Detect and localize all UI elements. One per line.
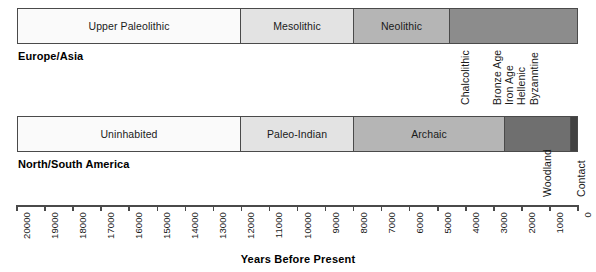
- axis-tick-label: 9000: [330, 212, 341, 234]
- axis-tick: [185, 205, 187, 211]
- axis-tick-label: 14000: [189, 212, 200, 239]
- timeline-vertical-label: Chalcolithic: [459, 50, 471, 105]
- axis-tick-label: 12000: [245, 212, 256, 239]
- axis-tick-label: 17000: [105, 212, 116, 239]
- timeline-segment: Archaic: [354, 117, 505, 151]
- timeline-vertical-label: Contact: [575, 160, 587, 197]
- region-title-north-south-america: North/South America: [18, 158, 130, 170]
- timeline-vertical-label: Bronze Age: [491, 50, 503, 105]
- timeline-segment-label: Archaic: [411, 128, 447, 140]
- axis-tick-label: 0: [582, 212, 593, 217]
- timeline-vertical-label: Hellenic: [515, 67, 527, 105]
- axis-tick-label: 16000: [133, 212, 144, 239]
- axis-tick-label: 19000: [49, 212, 60, 239]
- timeline-segment-label: Mesolithic: [273, 20, 321, 32]
- axis-tick: [549, 205, 551, 211]
- axis-tick: [72, 205, 74, 211]
- axis-tick: [44, 205, 46, 211]
- axis-tick-label: 4000: [470, 212, 481, 234]
- timeline-chart: Upper PaleolithicMesolithicNeolithic Eur…: [0, 0, 596, 272]
- axis-tick: [521, 205, 523, 211]
- axis-tick: [437, 205, 439, 211]
- axis-tick-label: 15000: [161, 212, 172, 239]
- axis-tick: [16, 205, 18, 211]
- axis-tick-label: 1000: [554, 212, 565, 234]
- axis-tick-label: 10000: [302, 212, 313, 239]
- axis-tick: [269, 205, 271, 211]
- axis-tick-label: 7000: [386, 212, 397, 234]
- timeline-segment: Mesolithic: [241, 9, 354, 43]
- axis-tick: [128, 205, 130, 211]
- timeline-segment: [450, 9, 578, 43]
- timeline-vertical-label: Iron Age: [503, 65, 515, 105]
- x-axis-title: Years Before Present: [0, 253, 596, 265]
- axis-tick-label: 6000: [414, 212, 425, 234]
- axis-tick: [493, 205, 495, 211]
- axis-tick-label: 13000: [217, 212, 228, 239]
- timeline-segment: Paleo-Indian: [241, 117, 354, 151]
- timeline-vertical-label: Byzanntine: [528, 52, 540, 105]
- timeline-segment-label: Uninhabited: [100, 128, 157, 140]
- axis-tick-label: 8000: [358, 212, 369, 234]
- axis-tick-label: 18000: [77, 212, 88, 239]
- timeline-segment: Uninhabited: [18, 117, 241, 151]
- axis-tick-label: 2000: [526, 212, 537, 234]
- axis-tick-label: 3000: [498, 212, 509, 234]
- axis-tick: [297, 205, 299, 211]
- axis-tick: [353, 205, 355, 211]
- timeline-segment-label: Paleo-Indian: [267, 128, 327, 140]
- timeline-vertical-label: Woodland: [541, 149, 553, 197]
- timeline-segment: Neolithic: [354, 9, 450, 43]
- timeline-segment: [571, 117, 578, 151]
- axis-tick: [381, 205, 383, 211]
- axis-tick: [577, 205, 579, 211]
- timeline-bar-north-south-america: UninhabitedPaleo-IndianArchaic: [17, 116, 578, 152]
- axis-tick: [241, 205, 243, 211]
- region-title-europe-asia: Europe/Asia: [18, 50, 83, 62]
- axis-tick-label: 20000: [21, 212, 32, 239]
- timeline-segment-label: Neolithic: [381, 20, 422, 32]
- timeline-bar-europe-asia: Upper PaleolithicMesolithicNeolithic: [17, 8, 578, 44]
- axis-tick: [100, 205, 102, 211]
- timeline-segment: [505, 117, 571, 151]
- timeline-segment-label: Upper Paleolithic: [88, 20, 169, 32]
- axis-tick-label: 11000: [273, 212, 284, 238]
- axis-tick: [213, 205, 215, 211]
- axis-tick: [157, 205, 159, 211]
- axis-tick: [465, 205, 467, 211]
- axis-tick-label: 5000: [442, 212, 453, 234]
- axis-tick: [409, 205, 411, 211]
- timeline-segment: Upper Paleolithic: [18, 9, 241, 43]
- axis-tick: [325, 205, 327, 211]
